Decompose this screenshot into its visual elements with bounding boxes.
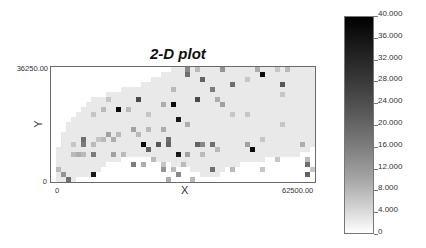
data-cell (66, 177, 71, 182)
data-cell (141, 162, 146, 167)
data-cell (285, 67, 290, 72)
data-cell (210, 87, 215, 92)
region-cell (235, 162, 240, 167)
data-cell (101, 107, 106, 112)
colorbar-tick-label: 8.000 (378, 183, 398, 192)
data-cell (195, 67, 200, 72)
data-cell (116, 132, 121, 137)
data-cell (245, 77, 250, 82)
data-cell (305, 157, 310, 162)
data-cell (91, 112, 96, 117)
data-cell (185, 72, 190, 77)
data-cell (121, 152, 126, 157)
colorbar-tick-label: 36.000 (378, 31, 402, 40)
data-cell (195, 97, 200, 102)
data-cell (171, 102, 176, 107)
data-cell (136, 132, 141, 137)
data-cell (91, 172, 96, 177)
data-cell (106, 97, 111, 102)
data-cell (96, 137, 101, 142)
y-axis-label: Y (32, 120, 44, 127)
region-cell (220, 167, 225, 172)
data-cell (136, 97, 141, 102)
data-cell (156, 142, 161, 147)
data-cell (91, 142, 96, 147)
data-cell (185, 67, 190, 72)
data-cell (131, 162, 136, 167)
data-cell (161, 127, 166, 132)
colorbar-tick-label: 24.000 (378, 96, 402, 105)
data-cell (161, 167, 166, 172)
colorbar-tick-label: 32.000 (378, 53, 402, 62)
data-cell (210, 167, 215, 172)
data-cell (230, 82, 235, 87)
data-cell (280, 122, 285, 127)
region-cell (305, 147, 310, 152)
data-cell (161, 102, 166, 107)
data-cell (185, 122, 190, 127)
region-cell (96, 167, 101, 172)
data-cell (300, 142, 305, 147)
data-cell (220, 67, 225, 72)
data-cell (146, 147, 151, 152)
y-tick-min: 0 (2, 177, 47, 186)
colorbar-tick-label: 0 (378, 227, 382, 236)
data-cell (260, 72, 265, 77)
data-cell (280, 92, 285, 97)
data-cell (56, 167, 61, 172)
y-tick-max: 36250.00 (2, 64, 48, 73)
data-cell (260, 137, 265, 142)
data-cell (200, 142, 205, 147)
colorbar-tick-label: 4.000 (378, 205, 398, 214)
data-cell (275, 67, 280, 72)
data-cell (151, 157, 156, 162)
data-cell (166, 142, 171, 147)
colorbar-tick-label: 20.000 (378, 118, 402, 127)
plot-area (50, 66, 316, 183)
data-cell (166, 177, 171, 182)
data-cell (305, 172, 310, 177)
data-cell (176, 172, 181, 177)
data-cell (146, 112, 151, 117)
data-cell (230, 167, 235, 172)
x-tick-min: 0 (55, 186, 59, 195)
data-cell (260, 167, 265, 172)
chart-title: 2-D plot (150, 45, 290, 62)
data-cell (101, 137, 106, 142)
data-cell (176, 152, 181, 157)
data-cell (111, 137, 116, 142)
region-cell (116, 157, 121, 162)
data-cell (310, 167, 315, 172)
data-cell (81, 142, 86, 147)
colorbar (344, 16, 374, 234)
data-cell (200, 152, 205, 157)
data-cell (81, 152, 86, 157)
region-cell (260, 157, 265, 162)
data-cell (76, 152, 81, 157)
x-axis-label: X (181, 184, 188, 196)
region-cell (215, 172, 220, 177)
data-cell (275, 157, 280, 162)
region-cell (295, 152, 300, 157)
data-cell (185, 152, 190, 157)
data-cell (190, 177, 195, 182)
data-cell (176, 117, 181, 122)
data-cell (280, 82, 285, 87)
colorbar-tick-label: 12.000 (378, 162, 402, 171)
data-cell (116, 107, 121, 112)
data-cell (220, 102, 225, 107)
data-cell (200, 77, 205, 82)
colorbar-tick-label: 40.000 (378, 9, 402, 18)
colorbar-tick-label: 16.000 (378, 140, 402, 149)
data-cell (146, 127, 151, 132)
data-cell (126, 107, 131, 112)
colorbar-tick-label: 28.000 (378, 74, 402, 83)
region-cell (71, 177, 76, 182)
data-cell (250, 147, 255, 152)
data-cell (71, 142, 76, 147)
data-cell (181, 162, 186, 167)
data-cell (230, 112, 235, 117)
data-cell (215, 147, 220, 152)
data-cell (91, 152, 96, 157)
region-cell (310, 142, 315, 147)
